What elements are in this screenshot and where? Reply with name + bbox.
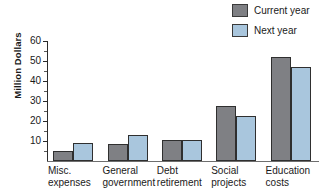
x-axis-label-line: Debt: [157, 165, 202, 177]
y-tick-label: 20: [30, 116, 41, 126]
bar: [291, 67, 311, 161]
y-tick-major: [43, 81, 47, 82]
bar: [162, 140, 182, 161]
bar: [216, 106, 236, 161]
y-tick-major: [43, 121, 47, 122]
legend-label-next-year: Next year: [254, 25, 297, 36]
legend-item-next-year: Next year: [232, 22, 324, 38]
y-tick-minor: [44, 131, 47, 132]
y-tick-minor: [44, 71, 47, 72]
bar: [128, 135, 148, 161]
y-tick-major: [43, 61, 47, 62]
x-axis-label-line: Education: [266, 165, 310, 177]
x-axis-label-line: government: [102, 177, 155, 189]
x-axis-label: Debtretirement: [157, 165, 202, 189]
y-tick-label: 10: [30, 136, 41, 146]
bar-chart-figure: Current year Next year Million Dollars 1…: [0, 0, 324, 194]
y-tick-major: [43, 141, 47, 142]
x-axis-label-line: Misc.: [48, 165, 91, 177]
y-tick-minor: [44, 111, 47, 112]
chart-legend: Current year Next year: [232, 2, 324, 42]
x-axis-label-line: retirement: [157, 177, 202, 189]
y-tick-minor: [44, 91, 47, 92]
y-tick-label: 50: [30, 56, 41, 66]
x-axis-label-line: Social: [211, 165, 246, 177]
x-axis-label: Educationcosts: [266, 165, 310, 189]
y-tick-minor: [44, 51, 47, 52]
x-axis-label: Socialprojects: [211, 165, 246, 189]
bar: [53, 151, 73, 161]
y-axis-line: [47, 41, 48, 162]
legend-swatch-next-year: [232, 24, 248, 37]
y-tick-label: 60: [30, 36, 41, 46]
x-axis-label-line: costs: [266, 177, 310, 189]
y-tick-label: 30: [30, 96, 41, 106]
x-axis-label: Misc.expenses: [48, 165, 91, 189]
y-tick-major: [43, 41, 47, 42]
x-axis-label-line: General: [102, 165, 155, 177]
bar: [182, 140, 202, 161]
y-tick-minor: [44, 151, 47, 152]
y-tick-label: 40: [30, 76, 41, 86]
bar: [236, 116, 256, 161]
x-axis-label-line: projects: [211, 177, 246, 189]
legend-item-current-year: Current year: [232, 2, 324, 18]
bar: [108, 144, 128, 161]
bar: [73, 143, 93, 161]
x-axis-label: Generalgovernment: [102, 165, 155, 189]
bar: [271, 57, 291, 161]
x-axis-label-line: expenses: [48, 177, 91, 189]
y-tick-major: [43, 101, 47, 102]
plot-area: 102030405060: [47, 41, 319, 161]
x-axis-line: [47, 161, 319, 162]
legend-swatch-current-year: [232, 4, 248, 17]
legend-label-current-year: Current year: [254, 5, 310, 16]
y-axis-title: Million Dollars: [12, 26, 23, 106]
